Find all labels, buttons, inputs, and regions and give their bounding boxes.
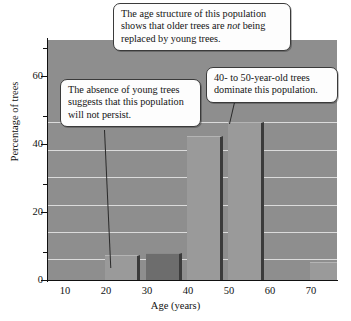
x-tick-label-70: 70 [296,285,326,296]
figure-container: 0 20 40 60 10 20 30 40 50 60 70 Age (yea… [0,0,351,321]
bar-70 [310,262,337,280]
x-tick-label-10: 10 [50,285,80,296]
y-axis-line [47,38,48,282]
annotation-top-emphasis: not [227,20,240,31]
x-tick-label-40: 40 [173,285,203,296]
y-tick-70 [43,48,48,49]
x-tick-label-60: 60 [255,285,285,296]
y-tick-label-0: 0 [13,275,43,285]
x-tick-label-50: 50 [214,285,244,296]
y-tick-50 [43,116,48,117]
x-axis-line [47,280,338,281]
x-axis-title: Age (years) [0,300,351,311]
x-tick-label-20: 20 [91,285,121,296]
bar-50 [228,122,264,280]
annotation-right: 40- to 50-year-old trees dominate this p… [206,67,338,103]
bar-40 [187,136,223,280]
annotation-left: The absence of young trees suggests that… [60,79,201,127]
x-tick-label-30: 30 [132,285,162,296]
annotation-top: The age structure of this population sho… [113,3,291,51]
y-tick-label-20: 20 [13,207,43,217]
bar-30 [146,253,182,280]
y-tick-10 [43,252,48,253]
y-tick-30 [43,184,48,185]
y-axis-title: Percentage of trees [9,52,20,192]
